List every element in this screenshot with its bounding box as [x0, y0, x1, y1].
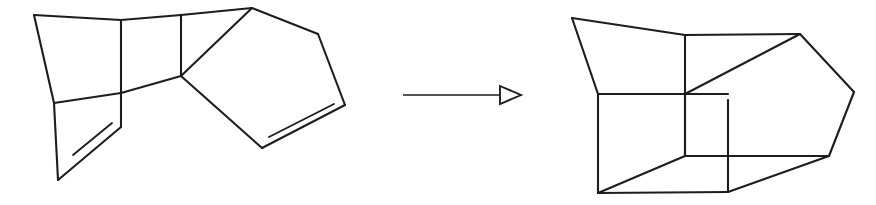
double-bond-inner-line — [269, 104, 334, 137]
bond-segment — [728, 156, 829, 192]
bond-segment — [54, 103, 58, 180]
bond-segment — [800, 34, 854, 92]
bond-segment — [121, 76, 181, 93]
bond-segment — [685, 34, 800, 94]
bond-segment — [598, 192, 728, 193]
bond-segment — [829, 92, 854, 156]
bond-segment — [572, 18, 685, 35]
reaction-scheme-canvas — [0, 0, 876, 205]
bond-segment — [181, 76, 262, 148]
bond-segment — [54, 93, 121, 103]
bond-segment — [598, 156, 685, 193]
bond-segment — [262, 105, 345, 148]
reaction-scheme-svg — [0, 0, 876, 205]
bond-segment — [58, 127, 121, 180]
arrow-head-icon — [500, 86, 521, 104]
bond-segment — [181, 8, 252, 15]
bond-segment — [572, 18, 598, 94]
reactant-skeleton-bonds — [34, 8, 345, 180]
bond-segment — [252, 8, 318, 34]
bond-segment — [34, 15, 54, 103]
bond-segment — [121, 15, 181, 20]
product-structure — [572, 18, 854, 193]
bond-segment — [318, 34, 345, 105]
bond-segment — [181, 8, 252, 76]
reactant-structure — [34, 8, 345, 180]
bond-segment — [34, 15, 121, 20]
reaction-arrow — [403, 86, 521, 104]
bond-segment — [685, 34, 800, 35]
reactant-double-bond-inner-lines — [73, 104, 334, 155]
product-skeleton-bonds — [572, 18, 854, 193]
